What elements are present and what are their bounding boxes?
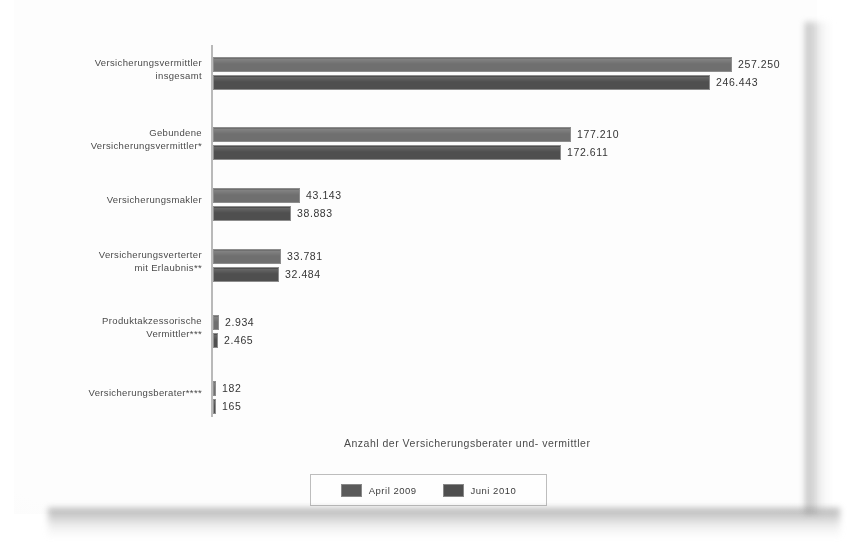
legend-label: Juni 2010 bbox=[471, 485, 517, 496]
category-label-line: insgesamt bbox=[24, 69, 202, 82]
chart-title: Anzahl der Versicherungsberater und- ver… bbox=[344, 437, 590, 449]
bar-highlight bbox=[214, 269, 278, 274]
bar-value-label: 246.443 bbox=[716, 75, 758, 90]
category-label: Versicherungsvermittlerinsgesamt bbox=[24, 56, 202, 82]
bar-4-series-1[interactable] bbox=[213, 333, 218, 348]
bar-highlight bbox=[214, 129, 570, 134]
bar-value-label: 182 bbox=[222, 381, 241, 396]
bar-value-label: 2.934 bbox=[225, 315, 254, 330]
category-label-line: Versicherungsvermittler* bbox=[24, 139, 202, 152]
bar-highlight bbox=[214, 401, 215, 406]
bar-5-series-1[interactable] bbox=[213, 399, 216, 414]
page-shadow-bottom bbox=[48, 508, 840, 538]
page-shadow-right bbox=[805, 22, 833, 514]
bar-highlight bbox=[214, 317, 218, 322]
category-label-line: mit Erlaubnis** bbox=[24, 261, 202, 274]
legend-label: April 2009 bbox=[369, 485, 417, 496]
category-label-line: Versicherungsberater**** bbox=[24, 386, 202, 399]
bar-1-series-1[interactable] bbox=[213, 145, 561, 160]
category-label-line: Vermittler*** bbox=[24, 327, 202, 340]
bar-5-series-0[interactable] bbox=[213, 381, 216, 396]
legend-swatch-april-2009 bbox=[341, 484, 362, 497]
legend-swatch-juni-2010 bbox=[443, 484, 464, 497]
bar-value-label: 172.611 bbox=[567, 145, 608, 160]
bar-1-series-0[interactable] bbox=[213, 127, 571, 142]
chart-legend: April 2009Juni 2010 bbox=[310, 474, 547, 506]
bar-highlight bbox=[214, 208, 290, 213]
category-label-line: Versicherungsverterter bbox=[24, 248, 202, 261]
bar-value-label: 33.781 bbox=[287, 249, 323, 264]
bar-0-series-0[interactable] bbox=[213, 57, 732, 72]
bar-highlight bbox=[214, 335, 217, 340]
bar-0-series-1[interactable] bbox=[213, 75, 710, 90]
bar-value-label: 2.465 bbox=[224, 333, 253, 348]
category-label: Versicherungsvertertermit Erlaubnis** bbox=[24, 248, 202, 274]
category-axis-line bbox=[211, 45, 213, 417]
bar-2-series-1[interactable] bbox=[213, 206, 291, 221]
scanned-page: Versicherungsvermittlerinsgesamt257.2502… bbox=[14, 0, 817, 514]
category-label: GebundeneVersicherungsvermittler* bbox=[24, 126, 202, 152]
bar-2-series-0[interactable] bbox=[213, 188, 300, 203]
category-label: ProduktakzessorischeVermittler*** bbox=[24, 314, 202, 340]
bar-highlight bbox=[214, 251, 280, 256]
bar-value-label: 32.484 bbox=[285, 267, 321, 282]
bar-highlight bbox=[214, 383, 215, 388]
legend-item-april-2009[interactable]: April 2009 bbox=[341, 484, 417, 497]
bar-3-series-0[interactable] bbox=[213, 249, 281, 264]
bar-highlight bbox=[214, 190, 299, 195]
bar-value-label: 177.210 bbox=[577, 127, 619, 142]
bar-3-series-1[interactable] bbox=[213, 267, 279, 282]
bar-value-label: 43.143 bbox=[306, 188, 342, 203]
bar-value-label: 257.250 bbox=[738, 57, 780, 72]
category-label-line: Versicherungsvermittler bbox=[24, 56, 202, 69]
category-label-line: Gebundene bbox=[24, 126, 202, 139]
bar-value-label: 165 bbox=[222, 399, 241, 414]
category-label: Versicherungsberater**** bbox=[24, 386, 202, 399]
bar-chart: Versicherungsvermittlerinsgesamt257.2502… bbox=[14, 0, 817, 514]
bar-value-label: 38.883 bbox=[297, 206, 333, 221]
bar-4-series-0[interactable] bbox=[213, 315, 219, 330]
category-label-line: Produktakzessorische bbox=[24, 314, 202, 327]
bar-highlight bbox=[214, 147, 560, 152]
category-label: Versicherungsmakler bbox=[24, 193, 202, 206]
bar-highlight bbox=[214, 77, 709, 82]
category-label-line: Versicherungsmakler bbox=[24, 193, 202, 206]
bar-highlight bbox=[214, 59, 731, 64]
legend-item-juni-2010[interactable]: Juni 2010 bbox=[443, 484, 517, 497]
